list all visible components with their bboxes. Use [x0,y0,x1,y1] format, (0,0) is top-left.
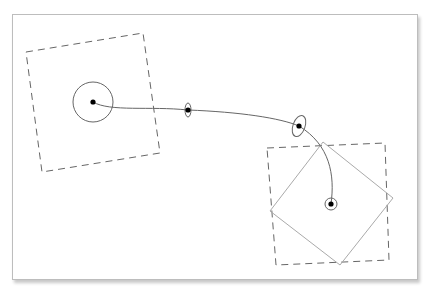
trajectory-nodes [73,82,337,210]
node-dot [185,107,190,112]
node-dot [296,123,301,128]
diagram-canvas [0,0,426,294]
node-dot [90,99,95,104]
trajectory-curve [93,102,332,204]
node-dot [328,201,333,206]
